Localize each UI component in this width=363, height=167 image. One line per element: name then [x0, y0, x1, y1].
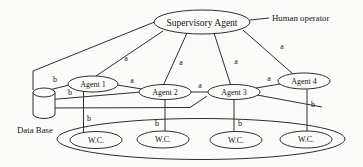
- edge-supervisory-agent2: [163, 33, 187, 86]
- agent4-label: Agent 4: [291, 77, 317, 86]
- edge-label-db-agent2: b: [68, 88, 72, 97]
- database-label: Data Base: [17, 125, 53, 135]
- node-supervisory-agent: Supervisory Agent: [154, 10, 250, 34]
- edge-label-agent3-agent4: a: [267, 74, 271, 83]
- node-wc1: W.C.: [70, 132, 122, 149]
- edge-supervisory-human-operator: [250, 18, 269, 20]
- wc3-label: W.C.: [228, 136, 244, 145]
- wc4-label: W.C.: [298, 135, 314, 144]
- edge-label-agent1-agent2: a: [130, 76, 134, 85]
- node-database: Data Base: [17, 88, 55, 135]
- wc1-label: W.C.: [88, 136, 104, 145]
- edge-label-sa-agent2: a: [179, 58, 183, 67]
- agent3-label: Agent 3: [221, 88, 247, 97]
- edge-label-agent4-wc: b: [311, 100, 315, 109]
- edge-label-agent2-agent3: a: [198, 81, 202, 90]
- agent-architecture-diagram: Supervisory Agent Agent 1 Agent 2 Agent …: [0, 0, 363, 167]
- edge-agent1-agent2: [117, 85, 142, 89]
- edge-label-sa-agent3: a: [234, 57, 238, 66]
- edge-label-sa-agent4: a: [280, 42, 284, 51]
- wc2-label: W.C.: [155, 135, 171, 144]
- node-agent1: Agent 1: [68, 76, 118, 92]
- node-wc4: W.C.: [280, 131, 332, 148]
- node-agent2: Agent 2: [139, 85, 191, 100]
- node-wc2: W.C.: [137, 131, 189, 148]
- edge-supervisory-agent3: [214, 33, 231, 86]
- supervisory-agent-label: Supervisory Agent: [167, 18, 238, 28]
- edge-label-db-agent1: b: [53, 75, 57, 84]
- human-operator-label: Human operator: [272, 13, 329, 23]
- edge-supervisory-agent1: [96, 31, 163, 76]
- edge-label-agent3-wc: b: [238, 119, 242, 128]
- node-agent4: Agent 4: [278, 73, 330, 89]
- diagram-svg: Supervisory Agent Agent 1 Agent 2 Agent …: [0, 0, 363, 167]
- edge-agent3-agent4: [256, 84, 280, 88]
- edge-label-sa-agent1: a: [124, 54, 128, 63]
- node-agent3: Agent 3: [208, 85, 260, 100]
- edges: [33, 18, 322, 132]
- edge-label-agent1-wc: b: [87, 114, 91, 123]
- node-wc3: W.C.: [210, 132, 262, 149]
- agent2-label: Agent 2: [152, 88, 178, 97]
- agent1-label: Agent 1: [80, 80, 106, 89]
- database-cylinder-top: [33, 88, 55, 97]
- edge-database-agent2: [46, 92, 141, 100]
- edge-label-agent2-wc: b: [155, 119, 159, 128]
- edge-supervisory-agent4: [243, 30, 293, 74]
